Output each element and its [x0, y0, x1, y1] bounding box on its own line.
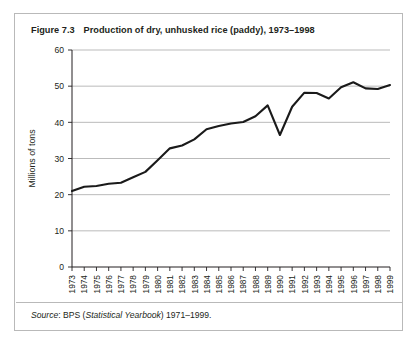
source-years: ) 1971–1999. — [161, 310, 212, 320]
y-tick-label: 30 — [54, 154, 64, 164]
x-tick-label: 1994 — [324, 275, 334, 294]
y-tick-label: 50 — [54, 81, 64, 91]
x-tick-label: 1996 — [349, 275, 359, 294]
x-tick-label: 1985 — [214, 275, 224, 294]
y-tick-label: 10 — [54, 226, 64, 236]
x-tick-label: 1982 — [177, 275, 187, 294]
x-tick-label: 1987 — [238, 275, 248, 294]
source-divider — [16, 302, 403, 303]
source-label: Source — [31, 310, 58, 320]
x-tick-label: 1973 — [67, 275, 77, 294]
figure-container: Figure 7.3Production of dry, unhusked ri… — [14, 13, 403, 331]
x-tick-label: 1993 — [312, 275, 322, 294]
y-axis-title: Millions of tons — [27, 129, 37, 188]
source-sep: : BPS ( — [58, 310, 85, 320]
chart-plot-area: 0102030405060 19731974197519761977197819… — [15, 14, 404, 332]
x-tick-label: 1980 — [153, 275, 163, 294]
source-note: Source: BPS (Statistical Yearbook) 1971–… — [31, 310, 211, 320]
x-tick-label: 1984 — [202, 275, 212, 294]
x-tick-label: 1990 — [275, 275, 285, 294]
x-tick-label: 1978 — [128, 275, 138, 294]
x-tick-label: 1988 — [251, 275, 261, 294]
x-tick-label: 1979 — [141, 275, 151, 294]
x-tick-label: 1976 — [104, 275, 114, 294]
y-axis-ticks: 0102030405060 — [54, 45, 72, 272]
source-publication: Statistical Yearbook — [85, 310, 160, 320]
grid-lines — [72, 50, 390, 231]
x-tick-label: 1999 — [385, 275, 395, 294]
x-tick-label: 1981 — [165, 275, 175, 294]
line-chart-svg: 0102030405060 19731974197519761977197819… — [15, 14, 404, 332]
x-tick-label: 1986 — [226, 275, 236, 294]
y-tick-label: 20 — [54, 190, 64, 200]
y-tick-label: 0 — [59, 262, 64, 272]
y-tick-label: 40 — [54, 118, 64, 128]
x-axis-ticks: 1973197419751976197719781979198019811982… — [67, 267, 395, 293]
data-series-line — [72, 82, 390, 191]
x-tick-label: 1977 — [116, 275, 126, 294]
y-tick-label: 60 — [54, 45, 64, 55]
x-tick-label: 1998 — [373, 275, 383, 294]
x-tick-label: 1995 — [336, 275, 346, 294]
x-tick-label: 1983 — [190, 275, 200, 294]
x-tick-label: 1997 — [361, 275, 371, 294]
x-tick-label: 1974 — [79, 275, 89, 294]
x-tick-label: 1991 — [287, 275, 297, 294]
x-tick-label: 1989 — [263, 275, 273, 294]
x-tick-label: 1975 — [92, 275, 102, 294]
x-tick-label: 1992 — [300, 275, 310, 294]
